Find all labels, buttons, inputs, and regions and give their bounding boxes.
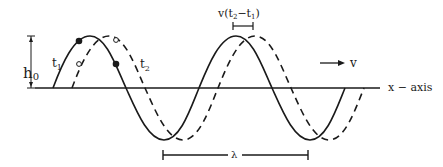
velocity-arrow bbox=[320, 60, 345, 66]
point-t2-dashed bbox=[114, 38, 119, 43]
x-axis-label: x − axis bbox=[388, 81, 433, 94]
wavelength-label: λ bbox=[231, 149, 238, 160]
velocity-label: v bbox=[349, 56, 357, 70]
displacement-bracket bbox=[233, 22, 253, 30]
wave-diagram: x − axis t1 t2 h0 v(t2−t1) v λ bbox=[0, 0, 443, 167]
point-t2-solid bbox=[113, 61, 120, 68]
point-t1-solid bbox=[76, 38, 83, 45]
amplitude-label: h0 bbox=[23, 64, 39, 82]
t1-label: t1 bbox=[52, 56, 62, 72]
t2-label: t2 bbox=[140, 57, 150, 73]
displacement-label: v(t2−t1) bbox=[217, 7, 260, 21]
point-t1-dashed bbox=[77, 62, 82, 67]
